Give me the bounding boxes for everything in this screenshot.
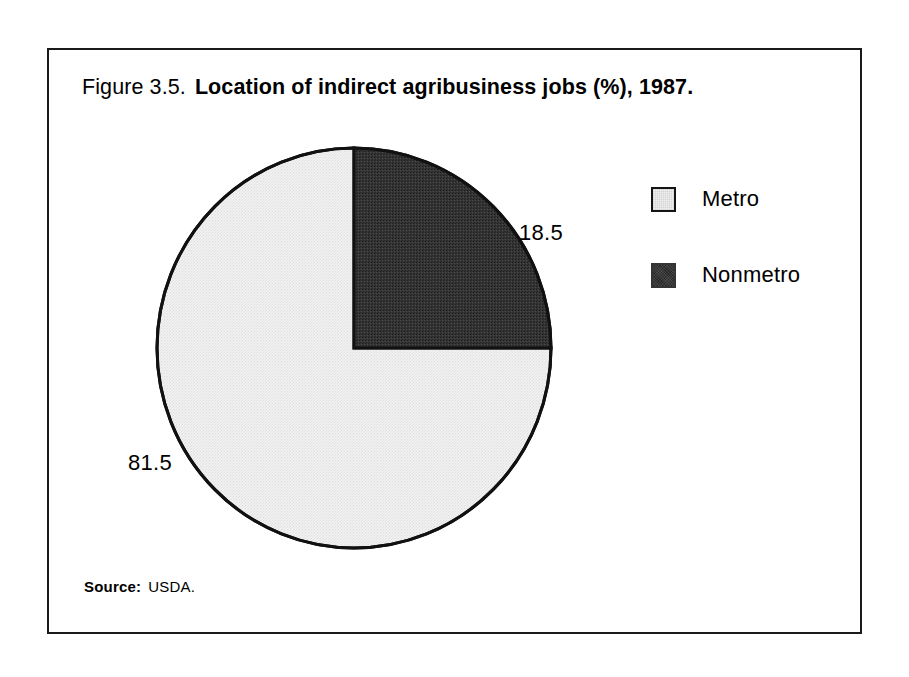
pie-slice-nonmetro <box>354 148 551 348</box>
figure-title: Figure 3.5.Location of indirect agribusi… <box>82 74 693 100</box>
source-value: USDA. <box>148 578 195 595</box>
pie-label-nonmetro-value: 18.5 <box>519 220 563 246</box>
pie-chart <box>155 145 565 560</box>
legend-swatch-nonmetro-icon <box>651 263 676 288</box>
chart-legend: Metro Nonmetro <box>651 183 851 335</box>
legend-swatch-metro-icon <box>651 187 676 212</box>
legend-item-nonmetro: Nonmetro <box>651 259 851 291</box>
pie-label-metro-value: 81.5 <box>128 450 172 476</box>
source-label: Source: <box>84 578 141 595</box>
figure-title-text: Location of indirect agribusiness jobs (… <box>195 75 693 99</box>
legend-item-metro: Metro <box>651 183 851 215</box>
legend-label-nonmetro: Nonmetro <box>702 262 800 288</box>
scanned-page-background: Figure 3.5.Location of indirect agribusi… <box>0 0 909 677</box>
source-note: Source:USDA. <box>84 578 195 595</box>
figure-number: Figure 3.5. <box>82 75 186 99</box>
legend-label-metro: Metro <box>702 186 759 212</box>
